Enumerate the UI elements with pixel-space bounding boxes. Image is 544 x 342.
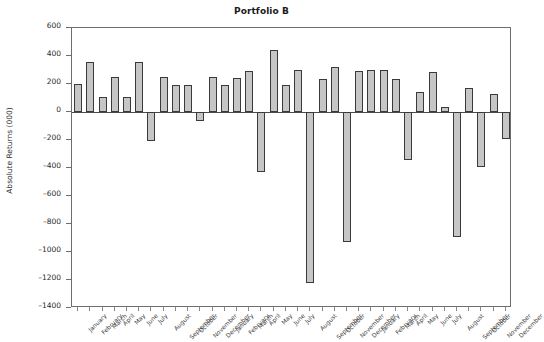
x-axis-tick-mark — [236, 307, 237, 311]
x-axis-tick-label: August — [172, 312, 192, 332]
y-axis-tick-mark — [66, 195, 71, 196]
x-axis-tick-mark — [346, 307, 347, 311]
y-axis-tick-mark — [66, 111, 71, 112]
y-axis-tick-label: –1000 — [38, 245, 61, 254]
bar — [74, 84, 82, 112]
bar — [123, 97, 131, 112]
bar — [111, 77, 119, 112]
x-axis-tick-mark — [383, 307, 384, 311]
bar — [416, 92, 424, 112]
zero-baseline — [72, 112, 510, 113]
x-axis-tick-mark — [480, 307, 481, 311]
y-axis-tick-mark — [66, 279, 71, 280]
y-axis-tick-mark — [66, 223, 71, 224]
bar — [99, 97, 107, 112]
y-axis-tick-label: 600 — [47, 21, 61, 30]
bar — [221, 85, 229, 112]
y-axis-tick-mark — [66, 55, 71, 56]
x-axis-tick-mark — [419, 307, 420, 311]
x-axis-tick-label: May — [426, 312, 440, 326]
x-axis-tick-label: August — [318, 312, 338, 332]
x-axis-tick-mark — [432, 307, 433, 311]
x-axis-tick-mark — [273, 307, 274, 311]
x-axis-tick-mark — [248, 307, 249, 311]
y-axis-tick-label: –1400 — [38, 301, 61, 310]
bar — [135, 62, 143, 112]
x-axis-tick-mark — [468, 307, 469, 311]
bar — [441, 107, 449, 112]
bar — [233, 78, 241, 112]
y-axis-tick-mark — [66, 251, 71, 252]
bar — [172, 85, 180, 112]
x-axis-tick-mark — [285, 307, 286, 311]
bar — [490, 94, 498, 112]
y-axis-tick-mark — [66, 167, 71, 168]
x-axis-tick-mark — [322, 307, 323, 311]
x-axis-tick-mark — [150, 307, 151, 311]
x-axis-tick-mark — [102, 307, 103, 311]
x-axis-tick-mark — [309, 307, 310, 311]
bar — [367, 70, 375, 112]
x-axis-tick-mark — [395, 307, 396, 311]
x-axis-tick-mark — [163, 307, 164, 311]
x-axis-tick-mark — [224, 307, 225, 311]
x-axis-tick-mark — [407, 307, 408, 311]
x-axis-tick-label: July — [157, 312, 170, 325]
y-axis-tick-mark — [66, 27, 71, 28]
x-axis-tick-mark — [138, 307, 139, 311]
bar — [209, 77, 217, 112]
y-axis-tick-label: –800 — [43, 217, 61, 226]
x-axis-tick-mark — [297, 307, 298, 311]
x-axis-tick-label: July — [450, 312, 463, 325]
x-axis-tick-mark — [126, 307, 127, 311]
bar — [331, 67, 339, 112]
x-axis-tick-label: May — [279, 312, 293, 326]
x-axis-tick-mark — [358, 307, 359, 311]
x-axis-tick-label: August — [465, 312, 485, 332]
y-axis-tick-mark — [66, 83, 71, 84]
x-axis-tick-mark — [456, 307, 457, 311]
bar — [343, 112, 351, 242]
bar — [147, 112, 155, 141]
bar — [306, 112, 314, 283]
bar — [465, 88, 473, 113]
bar — [404, 112, 412, 160]
x-axis: JanuaryFebruaryMarchAprilMayJuneJulyAugu… — [71, 307, 511, 342]
bar — [184, 85, 192, 112]
bar — [380, 70, 388, 112]
x-axis-tick-label: May — [133, 312, 147, 326]
bar — [257, 112, 265, 172]
y-axis-title: Absolute Returns (000) — [2, 0, 16, 300]
y-axis-tick-label: –200 — [43, 133, 61, 142]
bar — [245, 71, 253, 112]
x-axis-tick-mark — [77, 307, 78, 311]
x-axis-tick-mark — [175, 307, 176, 311]
y-axis-title-text: Absolute Returns (000) — [5, 107, 14, 194]
x-axis-tick-mark — [187, 307, 188, 311]
bar — [392, 79, 400, 112]
y-axis-tick-label: 0 — [56, 105, 61, 114]
x-axis-tick-mark — [260, 307, 261, 311]
bar-series — [72, 28, 510, 306]
y-axis-tick-label: 200 — [47, 77, 61, 86]
bar — [160, 77, 168, 112]
x-axis-tick-mark — [114, 307, 115, 311]
bar — [502, 112, 510, 139]
chart-title: Portfolio B — [0, 6, 523, 16]
x-axis-tick-mark — [199, 307, 200, 311]
bar — [355, 71, 363, 112]
y-axis-tick-mark — [66, 139, 71, 140]
y-axis-tick-label: –600 — [43, 189, 61, 198]
x-axis-tick-mark — [89, 307, 90, 311]
bar — [270, 50, 278, 112]
bar — [86, 62, 94, 112]
bar — [453, 112, 461, 237]
bar — [319, 79, 327, 112]
y-axis-tick-label: –1200 — [38, 273, 61, 282]
bar — [429, 72, 437, 112]
x-axis-tick-label: July — [303, 312, 316, 325]
x-axis-tick-mark — [212, 307, 213, 311]
bar — [282, 85, 290, 112]
bar — [196, 112, 204, 121]
